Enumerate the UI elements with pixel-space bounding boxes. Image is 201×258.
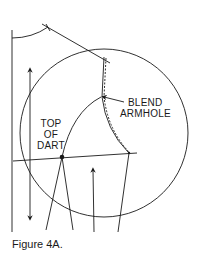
armhole-line	[102, 57, 104, 97]
dart-leg-left	[46, 157, 62, 230]
side-point-dot	[128, 152, 130, 154]
top-of-dart-label: TOP OF DART	[33, 118, 69, 151]
top-label-line1: TOP	[33, 118, 69, 129]
dart-point-dot	[60, 155, 65, 160]
middle-up-arrow	[93, 170, 94, 232]
neckline-curve	[12, 27, 48, 38]
blend-armhole-label: BLEND ARMHOLE	[120, 97, 172, 119]
blend-label-line1: BLEND	[120, 97, 172, 108]
top-label-line2: OF	[33, 129, 69, 140]
figure-caption: Figure 4A.	[12, 238, 63, 250]
shoulder-line	[42, 24, 110, 63]
dart-leg-right	[62, 157, 73, 230]
side-line	[118, 153, 129, 232]
horizontal-line	[13, 153, 137, 161]
pattern-diagram	[0, 0, 201, 258]
blend-label-line2: ARMHOLE	[120, 108, 172, 119]
top-label-line3: DART	[33, 140, 69, 151]
